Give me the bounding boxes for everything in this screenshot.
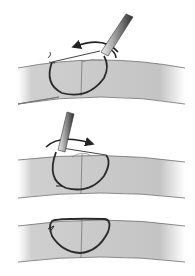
panel-3 [18, 219, 185, 262]
needle-holder-icon [58, 112, 74, 152]
needle-holder-icon [101, 14, 133, 56]
panel-2 [18, 112, 185, 198]
illustration-canvas [0, 0, 195, 276]
suture-illustration [0, 0, 195, 276]
tissue-band [18, 155, 185, 198]
thread-strand [62, 148, 106, 155]
panel-1 [18, 14, 185, 104]
